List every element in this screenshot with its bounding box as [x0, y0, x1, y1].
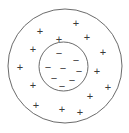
negative-charges-group: −−−−−−−− — [45, 47, 82, 92]
positive-charge-symbol: + — [73, 17, 79, 29]
negative-charge-symbol: − — [60, 62, 66, 74]
positive-charge-symbol: + — [30, 79, 36, 91]
positive-charge-symbol: + — [17, 61, 23, 73]
positive-charge-symbol: + — [84, 31, 90, 43]
positive-charge-symbol: + — [105, 81, 111, 93]
negative-charge-symbol: − — [76, 65, 82, 77]
positive-charge-symbol: + — [94, 65, 100, 77]
atom-charge-distribution-diagram: ++++++++++++++ −−−−−−−− — [0, 0, 129, 133]
positive-charge-symbol: + — [87, 90, 93, 102]
negative-charge-symbol: − — [59, 80, 65, 92]
positive-charge-symbol: + — [37, 25, 43, 37]
diagram-canvas: ++++++++++++++ −−−−−−−− — [0, 0, 129, 133]
positive-charge-symbol: + — [59, 103, 65, 115]
negative-charge-symbol: − — [56, 47, 62, 59]
positive-charge-symbol: + — [33, 99, 39, 111]
positive-charge-symbol: + — [100, 46, 106, 58]
positive-charge-symbol: + — [30, 43, 36, 55]
positive-charge-symbol: + — [56, 33, 62, 45]
negative-charge-symbol: − — [51, 72, 57, 84]
positive-charge-symbol: + — [77, 106, 83, 118]
negative-charge-symbol: − — [69, 74, 75, 86]
